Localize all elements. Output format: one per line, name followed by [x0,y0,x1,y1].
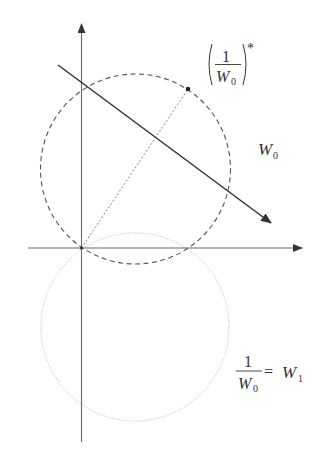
origin-point [80,246,83,249]
label-conjugate-star: * [247,41,254,56]
label-w0-base: W [258,140,274,159]
right-paren [243,44,246,85]
left-paren [209,44,212,85]
radius-line-dashed [82,89,189,248]
label-w0: W 0 [258,140,278,161]
circle-w0-dashed [41,74,231,264]
label-w1-rhs-base: W [282,363,298,382]
label-conjugate-den-sub: 0 [231,76,236,87]
label-w1-numerator: 1 [244,353,252,370]
label-conjugate-inverse: 1 W 0 * [209,41,254,87]
label-w0-sub: 0 [273,150,278,161]
circle-w1-dotted [41,233,229,421]
label-w1-rhs-sub: 1 [298,373,303,384]
directed-line-solid [58,65,271,223]
conjugate-inverse-point [186,87,191,92]
label-w1-equals: = [264,363,273,380]
label-conjugate-numerator: 1 [222,48,230,65]
label-w1-den-sub: 0 [253,383,258,394]
label-w1-den-base: W [238,375,253,392]
label-w1-equation: 1 W 0 = W 1 [236,353,303,394]
label-conjugate-den-base: W [216,68,231,85]
inversion-diagram: 1 W 0 * W 0 1 W 0 = W 1 [0,0,331,460]
